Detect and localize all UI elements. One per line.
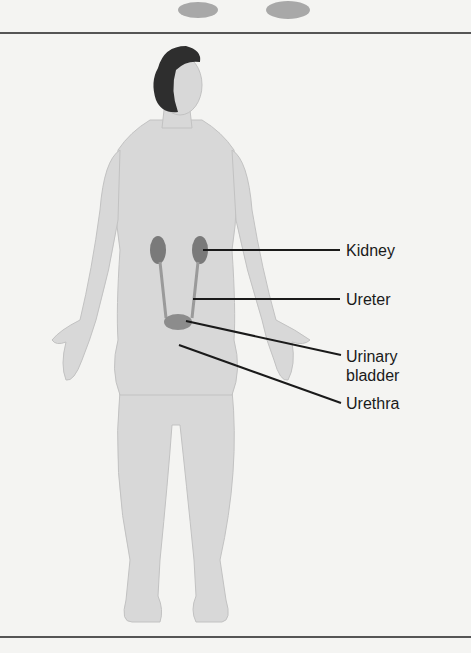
- label-urethra: Urethra: [346, 394, 399, 413]
- previous-figure-feet: [178, 1, 310, 19]
- anatomy-figure: [0, 0, 471, 653]
- label-kidney: Kidney: [346, 241, 395, 260]
- kidney-left: [150, 236, 166, 264]
- body-silhouette: [52, 55, 310, 622]
- label-urinary-bladder: Urinary bladder: [346, 347, 416, 385]
- label-ureter: Ureter: [346, 290, 390, 309]
